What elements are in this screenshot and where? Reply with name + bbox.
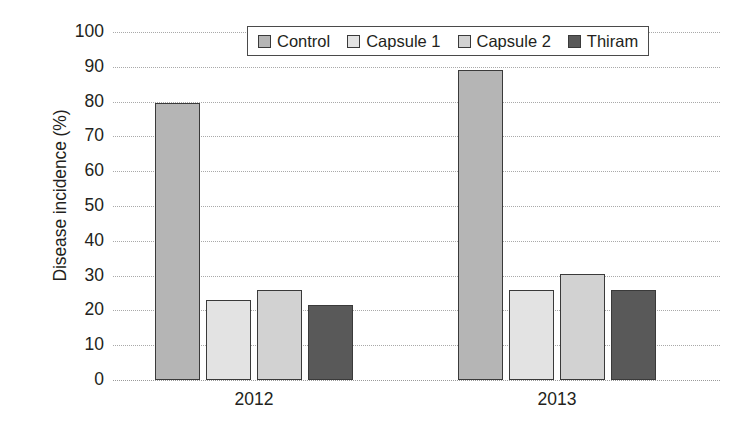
y-axis-tick-label: 0 [94, 369, 104, 390]
y-axis-tick-label: 50 [85, 195, 104, 216]
bar-capsule-1-2012 [206, 300, 251, 380]
legend-entry-capsule-2: Capsule 2 [458, 33, 551, 50]
plot-area: 0102030405060708090100 20122013 [113, 32, 720, 380]
bar-control-2013 [458, 70, 503, 380]
y-axis-tick-label: 60 [85, 160, 104, 181]
x-axis-category-label: 2012 [235, 389, 274, 410]
bar-capsule-2-2012 [257, 290, 302, 380]
y-axis-tick-label: 10 [85, 334, 104, 355]
gridline [113, 136, 720, 137]
bar-chart: Disease incidence (%) 010203040506070809… [0, 0, 732, 431]
gridline [113, 67, 720, 68]
legend-label: Control [277, 33, 330, 50]
legend-swatch-icon [568, 35, 581, 48]
y-axis-tick-label: 40 [85, 230, 104, 251]
bar-thiram-2012 [308, 305, 353, 380]
gridline [113, 102, 720, 103]
y-axis-tick-label: 80 [85, 91, 104, 112]
legend-entry-control: Control [258, 33, 330, 50]
y-axis-tick-label: 30 [85, 265, 104, 286]
bar-capsule-2-2013 [560, 274, 605, 380]
gridline [113, 206, 720, 207]
y-axis-tick-label: 90 [85, 56, 104, 77]
legend-label: Capsule 1 [366, 33, 440, 50]
legend-label: Thiram [587, 33, 638, 50]
legend-swatch-icon [258, 35, 271, 48]
legend-entry-thiram: Thiram [568, 33, 638, 50]
x-axis-category-label: 2013 [538, 389, 577, 410]
gridline [113, 276, 720, 277]
chart-legend: ControlCapsule 1Capsule 2Thiram [247, 26, 649, 56]
gridline [113, 171, 720, 172]
y-axis-tick-label: 20 [85, 299, 104, 320]
y-axis-title: Disease incidence (%) [50, 46, 71, 346]
legend-label: Capsule 2 [477, 33, 551, 50]
y-axis-tick-label: 70 [85, 125, 104, 146]
bar-thiram-2013 [611, 290, 656, 380]
y-axis-tick-label: 100 [75, 21, 104, 42]
legend-entry-capsule-1: Capsule 1 [347, 33, 440, 50]
legend-swatch-icon [458, 35, 471, 48]
bar-capsule-1-2013 [509, 290, 554, 380]
gridline [113, 380, 720, 381]
bar-control-2012 [155, 103, 200, 380]
gridline [113, 241, 720, 242]
legend-swatch-icon [347, 35, 360, 48]
